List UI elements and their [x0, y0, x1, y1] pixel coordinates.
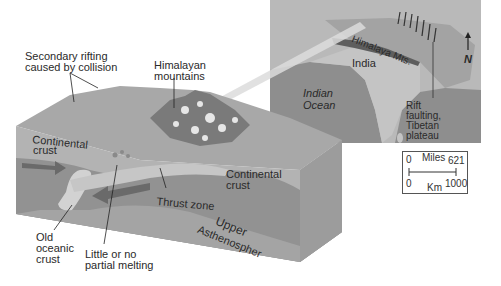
label-himalayan-2: mountains: [154, 71, 205, 82]
diagram-stage: Himalaya Mts. India Indian Ocean Rift fa…: [0, 0, 501, 286]
scale-bar: 0 Miles 621 0 Km 1000: [402, 151, 468, 194]
scale-miles-min: 0: [406, 155, 412, 165]
scale-miles-label: Miles: [422, 153, 445, 163]
label-continental-crust-left-2: crust: [33, 145, 57, 156]
label-continental-crust-right-2: crust: [226, 180, 250, 191]
scale-miles-max: 621: [448, 156, 465, 166]
label-old-oceanic-3: crust: [36, 254, 60, 265]
scale-km-min: 0: [406, 179, 412, 189]
label-secondary-rifting-2: caused by collision: [25, 62, 117, 73]
label-little-melting-2: partial melting: [85, 260, 153, 271]
scale-line: [408, 168, 458, 176]
scale-km-max: 1000: [445, 179, 467, 189]
scale-km-label: Km: [427, 183, 442, 193]
